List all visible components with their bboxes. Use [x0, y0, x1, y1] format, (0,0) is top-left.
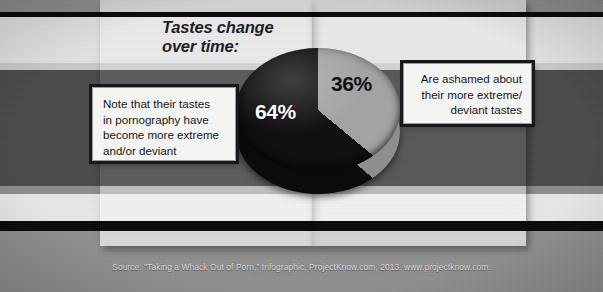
- callout-right-line-2: their more extreme/: [412, 87, 522, 103]
- infographic-canvas: Tastes change over time: 64% 36% Note th…: [0, 0, 603, 292]
- callout-right-line-1: Are ashamed about: [412, 71, 522, 87]
- callout-left: Note that their tastes in pornography ha…: [92, 87, 236, 161]
- callout-left-line-2: in pornography have: [103, 112, 226, 128]
- pie-slice-label-dark: 64%: [255, 100, 296, 124]
- callout-left-line-4: and/or deviant: [103, 143, 226, 159]
- pie-slice-label-gray: 36%: [331, 72, 372, 96]
- headline-line-1: Tastes change: [162, 18, 322, 37]
- callout-left-line-3: become more extreme: [103, 127, 226, 143]
- callout-right-line-3: deviant tastes: [412, 102, 522, 118]
- callout-right: Are ashamed about their more extreme/ de…: [403, 63, 532, 124]
- source-citation: Source: “Taking a Whack Out of Porn,” In…: [0, 262, 603, 272]
- pie-chart: 64% 36%: [233, 42, 403, 200]
- callout-left-line-1: Note that their tastes: [103, 96, 226, 112]
